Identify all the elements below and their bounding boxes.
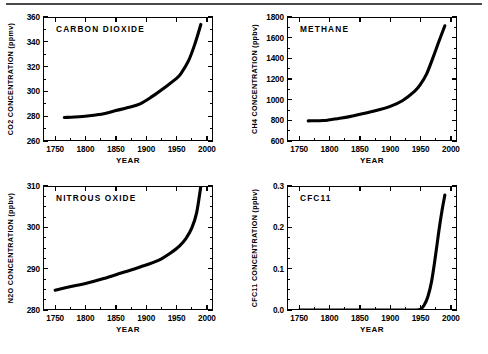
series-line-methane: [244, 8, 488, 185]
header-rule: [6, 3, 482, 5]
series-path: [64, 24, 201, 117]
panel-methane: CH4 CONCENTRATION (ppbv)6008001000120014…: [244, 8, 488, 177]
series-line-nitrous-oxide: [0, 177, 244, 354]
figure-panel-grid: CO2 CONCENTRATION (ppmv)2602803003203403…: [0, 8, 488, 354]
series-line-cfc11: [244, 177, 488, 354]
panel-nitrous-oxide: N2O CONCENTRATION (ppbv)2802903003101750…: [0, 177, 244, 354]
panel-cfc11: CFC11 CONCENTRATION (ppbv)0.00.10.20.317…: [244, 177, 488, 354]
series-path: [55, 186, 201, 290]
series-path: [308, 26, 445, 121]
panel-carbon-dioxide: CO2 CONCENTRATION (ppmv)2602803003203403…: [0, 8, 244, 177]
series-line-carbon-dioxide: [0, 8, 244, 185]
series-path: [299, 195, 445, 310]
